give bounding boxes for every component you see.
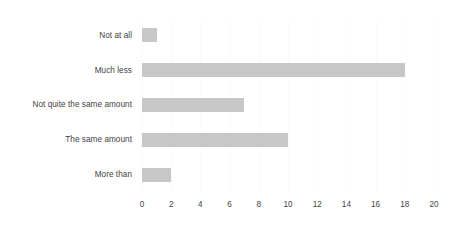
plot-area (142, 18, 434, 192)
value-axis-tick-label: 10 (283, 200, 292, 209)
bar-row (142, 53, 434, 88)
category-axis-labels: Not at all Much less Not quite the same … (0, 18, 137, 192)
category-label-row: Not quite the same amount (0, 88, 137, 123)
bar-not-quite-the-same-amount[interactable] (142, 98, 244, 112)
value-axis-tick-label: 6 (227, 200, 232, 209)
category-label-row: Not at all (0, 18, 137, 53)
category-label-not-at-all: Not at all (99, 31, 132, 40)
bar-row (142, 18, 434, 53)
value-axis-tick-label: 20 (429, 200, 438, 209)
category-label-row: More than (0, 157, 137, 192)
bar-series (142, 18, 434, 192)
value-axis-tick-label: 8 (257, 200, 262, 209)
value-axis-tick-label: 0 (140, 200, 145, 209)
bar-row (142, 157, 434, 192)
bar-more-than[interactable] (142, 168, 171, 182)
category-label-row: The same amount (0, 122, 137, 157)
value-axis-tick-label: 2 (169, 200, 174, 209)
value-axis-tick-label: 4 (198, 200, 203, 209)
category-label-more-than: More than (95, 170, 132, 179)
bar-chart: Not at all Much less Not quite the same … (0, 0, 453, 228)
bar-the-same-amount[interactable] (142, 133, 288, 147)
category-label-much-less: Much less (95, 66, 132, 75)
category-label-not-quite-the-same-amount: Not quite the same amount (32, 100, 132, 109)
value-axis-tick-label: 12 (313, 200, 322, 209)
value-axis-labels: 02468101214161820 (142, 196, 434, 222)
value-axis-tick-label: 18 (400, 200, 409, 209)
bar-row (142, 122, 434, 157)
category-label-row: Much less (0, 53, 137, 88)
bar-not-at-all[interactable] (142, 28, 157, 42)
bar-much-less[interactable] (142, 63, 405, 77)
category-label-the-same-amount: The same amount (65, 135, 132, 144)
gridline (434, 18, 435, 192)
value-axis-tick-label: 14 (342, 200, 351, 209)
bar-row (142, 88, 434, 123)
value-axis-tick-label: 16 (371, 200, 380, 209)
